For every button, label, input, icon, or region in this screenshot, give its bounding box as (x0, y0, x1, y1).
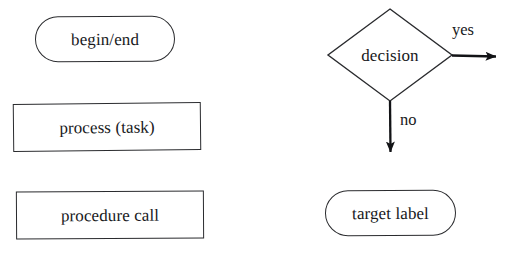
node-begin-end: begin/end (35, 16, 175, 63)
node-procedure-call: procedure call (16, 190, 204, 239)
yes-branch-arrow (452, 56, 496, 57)
node-target-label: target label (325, 190, 456, 236)
node-target-label-text: target label (352, 204, 429, 221)
node-process-task: process (task) (13, 102, 201, 152)
node-decision-label: decision (361, 47, 418, 64)
node-decision-label-wrap: decision (327, 8, 453, 102)
node-process-task-label: process (task) (59, 118, 155, 136)
node-procedure-call-label: procedure call (61, 206, 159, 224)
yes-branch-label: yes (452, 22, 474, 39)
no-branch-label: no (400, 112, 417, 129)
no-branch-arrow (390, 101, 391, 152)
flowchart-legend-diagram: begin/end process (task) procedure call … (0, 0, 510, 255)
node-begin-end-label: begin/end (71, 30, 139, 47)
